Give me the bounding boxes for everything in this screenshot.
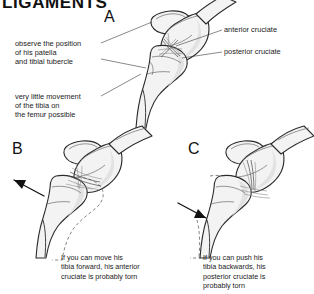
- caption-panel-c: If you can push his tibia backwards, his…: [203, 253, 266, 291]
- arrow-forward-b: [14, 180, 44, 196]
- note-little-movement: very little movement of the tibia on the…: [15, 92, 81, 120]
- figure-title: LIGAMENTS: [2, 0, 108, 13]
- patella-a: [151, 11, 192, 35]
- tibia-b: [36, 175, 87, 258]
- tibia-a: [136, 45, 187, 128]
- label-anterior-cruciate: anterior cruciate: [224, 25, 277, 34]
- panel-label-b: B: [12, 140, 23, 158]
- patella-b: [64, 141, 104, 165]
- label-posterior-cruciate: posterior cruciate: [224, 47, 281, 56]
- figure-canvas: LIGAMENTS A anterior cruciate posterior …: [0, 0, 314, 294]
- cruciate-ligaments-b: [66, 164, 102, 190]
- cruciate-ligaments-c: [240, 160, 270, 198]
- panel-label-c: C: [188, 140, 200, 158]
- femur-b: [74, 126, 152, 192]
- note-observe-position: observe the position of his patella and …: [15, 39, 81, 67]
- cruciate-ligaments-a: [158, 33, 184, 57]
- arrow-backward-c: [178, 203, 206, 218]
- tibia-ghost-c: [190, 175, 241, 258]
- tibia-ghost-b: [52, 177, 103, 260]
- panel-label-a: A: [104, 8, 115, 26]
- patella-c: [226, 141, 266, 165]
- panel-b-drawing: [14, 126, 152, 260]
- tibia-c: [200, 175, 251, 258]
- caption-panel-b: If you can move his tibia forward, his a…: [61, 253, 140, 281]
- femur-c: [236, 126, 314, 192]
- leader-lines-a: [101, 22, 222, 96]
- panel-a-drawing: [101, 0, 236, 128]
